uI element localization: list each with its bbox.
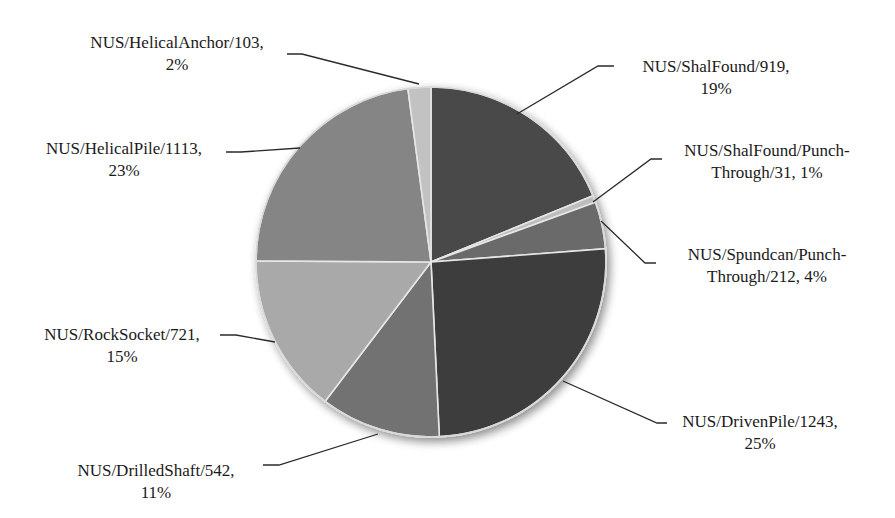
label-helicalanchor: NUS/HelicalAnchor/103, 2% bbox=[72, 32, 282, 76]
pie-slices bbox=[256, 87, 606, 437]
leader-line bbox=[593, 159, 662, 202]
leader-line bbox=[517, 66, 614, 114]
leader-line bbox=[220, 335, 275, 342]
label-spundcan-punch-through: NUS/Spundcan/Punch- Through/212, 4% bbox=[660, 244, 874, 288]
pie-slice-nus-helicalpile bbox=[256, 89, 431, 262]
leader-line bbox=[263, 434, 378, 465]
pie-slice-nus-drivenpile bbox=[431, 249, 606, 437]
label-rocksocket: NUS/RockSocket/721, 15% bbox=[22, 324, 222, 368]
leader-line bbox=[563, 381, 667, 423]
label-shalfound-punch-through: NUS/ShalFound/Punch- Through/31, 1% bbox=[660, 140, 874, 184]
label-helicalpile: NUS/HelicalPile/1113, 23% bbox=[22, 138, 226, 182]
label-drilledshaft: NUS/DrilledShaft/542, 11% bbox=[56, 460, 256, 504]
leader-line bbox=[287, 54, 419, 84]
label-drivenpile: NUS/DrivenPile/1243, 25% bbox=[658, 411, 862, 455]
label-shalfound: NUS/ShalFound/919, 19% bbox=[618, 56, 814, 100]
leader-line bbox=[226, 148, 300, 152]
leader-line bbox=[601, 221, 656, 263]
